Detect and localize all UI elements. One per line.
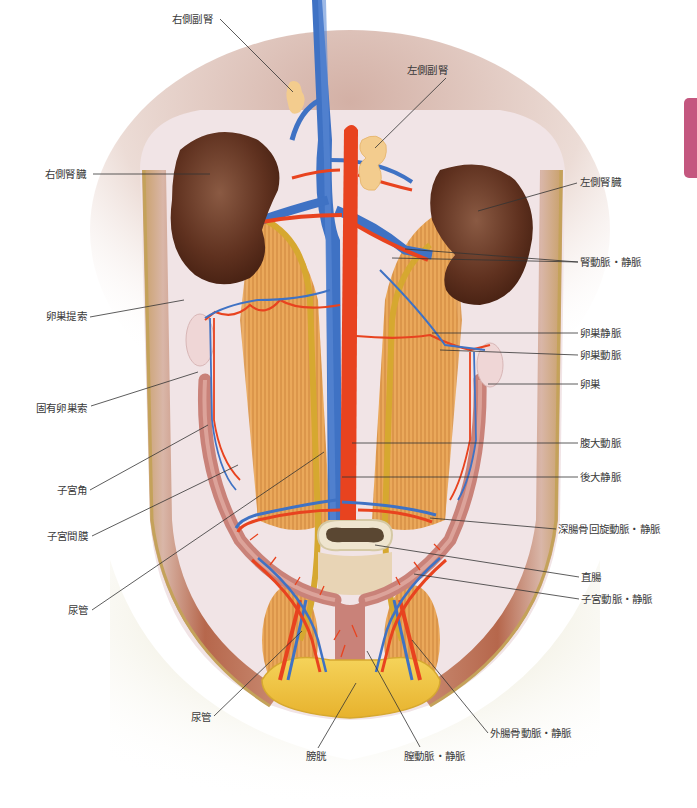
label-left-kidney: 左側腎臓 <box>580 176 621 188</box>
anatomy-diagram: 右側副腎 左側副腎 右側腎臓 左側腎臓 腎動脈・静脈 卵巣提索 卵巣静脈 卵巣動… <box>0 0 697 808</box>
label-ureter-upper: 尿管 <box>68 604 88 616</box>
label-uterine-horn: 子宮角 <box>57 484 88 496</box>
label-rectum: 直腸 <box>581 571 601 583</box>
label-right-kidney: 右側腎臓 <box>45 168 86 180</box>
label-abdominal-aorta: 腹大動脈 <box>580 437 621 449</box>
label-ovarian-artery: 卵巣動脈 <box>580 349 621 361</box>
label-mesometrium: 子宮間膜 <box>47 530 88 542</box>
label-right-adrenal: 右側副腎 <box>172 13 213 25</box>
label-ovarian-suspensory-ligament: 卵巣提索 <box>46 310 87 322</box>
label-ovary: 卵巣 <box>580 378 600 390</box>
label-uterine-artery-vein: 子宮動脈・静脈 <box>581 593 652 605</box>
label-ureter-lower: 尿管 <box>191 711 211 723</box>
label-left-adrenal: 左側副腎 <box>407 64 448 76</box>
label-proper-ovarian-ligament: 固有卵巣索 <box>36 402 87 414</box>
anatomy-illustration <box>0 0 697 808</box>
label-renal-artery-vein: 腎動脈・静脈 <box>580 256 641 268</box>
label-caudal-vena-cava: 後大静脈 <box>580 471 621 483</box>
section-index-tab[interactable] <box>684 98 697 178</box>
label-urinary-bladder: 膀胱 <box>306 750 326 762</box>
label-deep-circumflex-iliac: 深腸骨回旋動脈・静脈 <box>558 523 660 535</box>
label-ovarian-vein: 卵巣静脈 <box>580 327 621 339</box>
label-external-iliac: 外腸骨動脈・静脈 <box>490 727 572 739</box>
label-vaginal-artery-vein: 膣動脈・静脈 <box>404 750 465 762</box>
